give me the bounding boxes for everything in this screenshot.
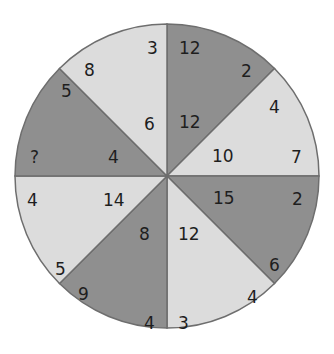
number: 5 <box>61 81 72 101</box>
number: 12 <box>178 224 200 244</box>
number: 3 <box>178 313 189 333</box>
number: 14 <box>103 190 125 210</box>
number: 7 <box>291 147 302 167</box>
number: 5 <box>55 259 66 279</box>
number: 4 <box>144 313 155 333</box>
number: 3 <box>147 38 158 58</box>
number-wheel-puzzle: 12 2 12 4 7 10 2 6 15 4 3 12 4 9 8 5 4 1… <box>0 0 334 354</box>
number: 4 <box>27 190 38 210</box>
number: 4 <box>108 147 119 167</box>
number: 6 <box>144 114 155 134</box>
number: 9 <box>78 284 89 304</box>
number: 8 <box>139 224 150 244</box>
question-mark: ? <box>30 147 39 167</box>
number: 15 <box>213 188 235 208</box>
number: 6 <box>269 255 280 275</box>
number: 2 <box>241 61 252 81</box>
number: 2 <box>292 189 303 209</box>
number: 10 <box>212 146 234 166</box>
number: 12 <box>179 112 201 132</box>
number: 4 <box>269 97 280 117</box>
number: 4 <box>247 287 258 307</box>
number: 12 <box>179 38 201 58</box>
number: 8 <box>84 60 95 80</box>
wheel-segments <box>15 24 319 328</box>
